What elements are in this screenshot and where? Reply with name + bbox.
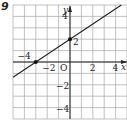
y-tick-label: −2 [56,81,69,91]
x-tick-label: 2 [90,63,96,73]
y-axis-label: y [62,5,69,15]
origin-label: O [60,63,67,73]
x-tick-label: −2 [42,63,55,73]
axis-labels: −4−224O42−2−4xy [17,5,126,114]
x-tick-label: 4 [113,63,119,73]
x-tick-label: −4 [17,51,31,61]
point-marker [68,37,72,41]
point-marker [34,60,38,64]
y-tick-label: −4 [56,104,70,114]
x-axis-label: x [121,62,126,72]
y-axis-arrow-icon [68,6,72,12]
y-tick-label: 2 [73,37,79,47]
coordinate-plane: −4−224O42−2−4xy [0,0,127,120]
axes [13,6,127,119]
